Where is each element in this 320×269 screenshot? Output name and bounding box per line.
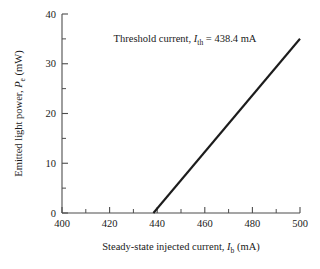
x-axis-title-unit: (mA) (234, 241, 260, 253)
y-tick-label-10: 10 (46, 158, 57, 169)
x-tick-label-500: 500 (292, 218, 308, 229)
y-axis-title-unit: (mW) (13, 50, 25, 78)
x-axis-title-lead: Steady-state injected current, (102, 241, 227, 252)
annotation-unit: mA (238, 33, 257, 44)
annotation-equals: = (203, 33, 214, 44)
y-axis-tick-labels: 40 30 20 10 0 (46, 9, 57, 219)
annotation-lead: Threshold current, (114, 33, 194, 44)
y-tick-label-0: 0 (51, 208, 56, 219)
x-axis-title: Steady-state injected current, Ib (mA) (102, 241, 260, 255)
x-axis-minor-ticks (86, 209, 276, 213)
threshold-current-annotation: Threshold current, Ith = 438.4 mA (114, 33, 257, 47)
x-tick-label-460: 460 (197, 218, 213, 229)
y-tick-label-40: 40 (46, 9, 57, 20)
x-tick-label-480: 480 (245, 218, 261, 229)
y-axis-title-lead: Emitted light power, (13, 88, 24, 177)
annotation-value: 438.4 (214, 33, 238, 44)
x-tick-label-420: 420 (102, 218, 118, 229)
x-tick-label-400: 400 (54, 218, 70, 229)
y-tick-label-30: 30 (46, 58, 57, 69)
y-tick-label-20: 20 (46, 108, 57, 119)
y-axis-major-ticks (62, 14, 68, 213)
chart-figure: 40 30 20 10 0 400 420 440 460 480 500 St… (0, 0, 320, 269)
x-axis-tick-labels: 400 420 440 460 480 500 (54, 218, 308, 229)
line-chart: 40 30 20 10 0 400 420 440 460 480 500 St… (0, 0, 320, 269)
data-series-line (153, 39, 300, 213)
x-tick-label-440: 440 (149, 218, 165, 229)
y-axis-title: Emitted light power, Pe (mW) (13, 50, 27, 177)
